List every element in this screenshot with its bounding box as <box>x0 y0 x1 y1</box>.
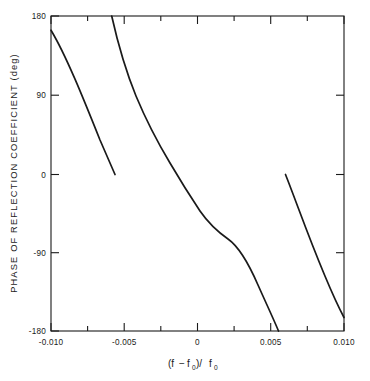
y-tick-labels: 180 90 0 -90 -180 <box>29 12 46 336</box>
x-tick-label: 0.010 <box>333 338 355 347</box>
y-axis-ticks-right <box>336 95 344 253</box>
y-tick-label: 90 <box>36 91 46 100</box>
y-tick-label: -90 <box>34 249 47 258</box>
y-axis-ticks <box>51 16 59 331</box>
y-tick-label: 0 <box>41 171 46 180</box>
x-tick-label: 0.005 <box>260 338 282 347</box>
x-axis-title-open: (f <box>168 358 174 369</box>
phase-vs-frequency-plot: -0.010 -0.005 0 0.005 0.010 180 90 0 -90… <box>0 0 370 381</box>
x-axis-title-close: )/ <box>196 358 202 369</box>
y-axis-title: PHASE OF REFLECTION COEFFICIENT (deg) <box>9 53 19 293</box>
x-tick-label: -0.005 <box>112 338 137 347</box>
x-axis-title-minus: − <box>179 358 185 369</box>
x-axis-title: (f − f 0 )/ f 0 <box>168 358 218 371</box>
x-tick-label: 0 <box>195 338 200 347</box>
x-axis-ticks-top <box>51 16 344 24</box>
x-axis-title-f2-sub: 0 <box>214 364 218 371</box>
x-tick-labels: -0.010 -0.005 0 0.005 0.010 <box>39 338 355 347</box>
x-axis-title-f2: f <box>209 358 212 369</box>
data-curves <box>51 16 344 331</box>
x-axis-title-f1: f <box>187 358 190 369</box>
y-tick-label: 180 <box>32 12 47 21</box>
x-tick-label: -0.010 <box>39 338 64 347</box>
curve-branch-center <box>112 16 279 331</box>
curve-branch-left <box>51 30 115 174</box>
figure-container: -0.010 -0.005 0 0.005 0.010 180 90 0 -90… <box>0 0 370 381</box>
y-tick-label: -180 <box>29 327 46 336</box>
curve-branch-right <box>286 175 345 318</box>
x-axis-ticks <box>51 323 344 331</box>
plot-frame <box>51 16 344 331</box>
